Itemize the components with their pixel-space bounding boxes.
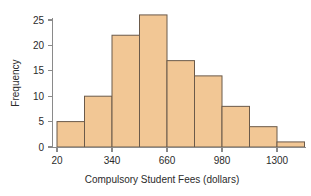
y-tick-label: 25 [33, 15, 45, 26]
histogram-bar [112, 35, 140, 147]
chart-canvas: Frequency 0 5 10 15 20 25 [0, 0, 311, 196]
y-tick-label: 20 [33, 40, 45, 51]
histogram-bar [57, 122, 85, 147]
histogram-bar [140, 15, 168, 147]
histogram-bar [277, 142, 305, 147]
x-tick-label: 1300 [266, 155, 289, 166]
x-tick-label: 660 [159, 155, 176, 166]
x-tick-label: 340 [104, 155, 121, 166]
histogram-bar [195, 76, 223, 147]
histogram-bar [85, 96, 113, 147]
y-tick-label: 0 [38, 142, 44, 153]
histogram-bar [167, 61, 195, 147]
histogram-figure: Frequency 0 5 10 15 20 25 [0, 0, 311, 196]
x-tick-label: 980 [214, 155, 231, 166]
y-axis-title: Frequency [10, 59, 21, 106]
x-tick-label: 20 [51, 155, 63, 166]
histogram-bar [222, 106, 250, 147]
histogram-bar [250, 127, 278, 147]
y-tick-label: 5 [38, 116, 44, 127]
y-tick-label: 15 [33, 65, 45, 76]
x-axis-title: Compulsory Student Fees (dollars) [85, 174, 240, 185]
y-tick-label: 10 [33, 91, 45, 102]
